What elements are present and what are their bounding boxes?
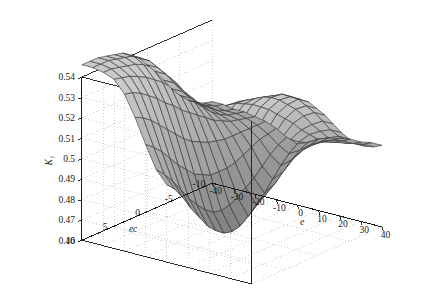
svg-text:-10: -10	[273, 203, 286, 213]
svg-text:-20: -20	[252, 197, 265, 207]
svg-text:0.51: 0.51	[58, 134, 75, 144]
svg-text:10: 10	[317, 214, 327, 224]
svg-text:-40: -40	[209, 186, 222, 196]
svg-text:0.48: 0.48	[58, 195, 75, 205]
svg-text:-10: -10	[193, 179, 206, 189]
svg-text:10: 10	[66, 236, 76, 246]
svg-text:0.49: 0.49	[58, 174, 75, 184]
svg-text:0.54: 0.54	[58, 72, 75, 82]
svg-text:0.52: 0.52	[58, 113, 75, 123]
figure-canvas: 0.460.470.480.490.50.510.520.530.541050-…	[0, 0, 440, 303]
svg-text:0.53: 0.53	[58, 93, 75, 103]
svg-text:0.5: 0.5	[63, 154, 75, 164]
svg-text:0: 0	[135, 208, 140, 218]
svg-text:0.47: 0.47	[58, 215, 75, 225]
svg-text:5: 5	[103, 222, 108, 232]
svg-text:40: 40	[381, 230, 391, 240]
svg-text:K₁: K₁	[44, 156, 54, 167]
svg-text:ec: ec	[129, 224, 138, 234]
svg-text:20: 20	[338, 219, 348, 229]
svg-text:-30: -30	[231, 192, 244, 202]
surface-plot-svg: 0.460.470.480.490.50.510.520.530.541050-…	[0, 0, 440, 303]
svg-text:-5: -5	[165, 194, 173, 204]
svg-text:e: e	[300, 217, 304, 227]
svg-text:30: 30	[360, 225, 370, 235]
